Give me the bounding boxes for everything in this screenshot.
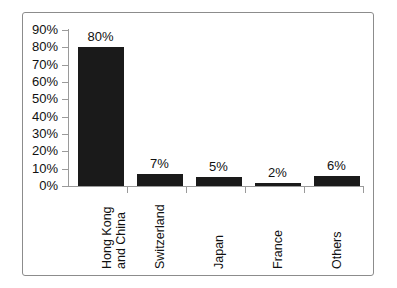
y-axis-tick [62, 47, 68, 48]
y-axis-tick-label: 10% [14, 162, 58, 175]
x-axis-category-label: France [271, 230, 285, 269]
y-axis-tick-label-text: 0% [14, 179, 58, 192]
y-axis-tick [62, 186, 68, 187]
bar-value-label: 80% [71, 30, 131, 44]
y-axis-tick-label-text: 10% [14, 162, 58, 175]
plot-area: 0%10%20%30%40%50%60%70%80%90% 80%7%5%2%6… [0, 0, 397, 288]
y-axis-tick [62, 30, 68, 31]
bar [196, 177, 242, 186]
x-axis-category-label: Switzerland [153, 204, 167, 269]
y-axis-tick [62, 117, 68, 118]
bar [78, 47, 124, 186]
y-axis-tick-label-text: 80% [14, 40, 58, 53]
y-axis-tick-label-text: 70% [14, 58, 58, 71]
bar-value-label: 2% [248, 166, 308, 180]
y-axis-tick-label: 40% [14, 110, 58, 123]
y-axis-tick-label-text: 50% [14, 92, 58, 105]
y-axis-tick-label-text: 20% [14, 144, 58, 157]
y-axis-tick-label-text: 30% [14, 127, 58, 140]
y-axis-tick-label: 90% [14, 23, 58, 36]
y-axis-tick-label: 30% [14, 127, 58, 140]
y-axis-tick [62, 151, 68, 152]
x-axis-tick [245, 186, 246, 193]
bar [314, 176, 360, 186]
x-axis-tick [127, 186, 128, 193]
y-axis-tick-label-text: 40% [14, 110, 58, 123]
x-axis-category-label: Others [330, 231, 344, 269]
category-label-line: Others [330, 231, 344, 269]
y-axis-tick-label: 50% [14, 92, 58, 105]
x-axis-line [68, 186, 363, 187]
y-axis-tick-label: 0% [14, 179, 58, 192]
y-axis-tick-label: 80% [14, 40, 58, 53]
y-axis-tick [62, 82, 68, 83]
category-label-line: France [271, 230, 285, 269]
y-axis-tick-label-text: 60% [14, 75, 58, 88]
x-axis-tick [186, 186, 187, 193]
category-label-line: Hong Kong [100, 206, 114, 269]
bar [255, 183, 301, 186]
x-axis-tick [304, 186, 305, 193]
category-label-line: Switzerland [153, 204, 167, 269]
y-axis-tick-label-text: 90% [14, 23, 58, 36]
x-axis-category-label: Japan [212, 235, 226, 269]
y-axis-tick-label: 70% [14, 58, 58, 71]
category-label-line: Japan [212, 235, 226, 269]
category-label-line: and China [114, 206, 128, 269]
y-axis-tick [62, 65, 68, 66]
bar-value-label: 6% [307, 159, 367, 173]
x-axis-tick [363, 186, 364, 193]
bar-value-label: 7% [130, 157, 190, 171]
y-axis-tick [62, 99, 68, 100]
bar-value-label: 5% [189, 160, 249, 174]
bar-chart-figure: 0%10%20%30%40%50%60%70%80%90% 80%7%5%2%6… [0, 0, 397, 288]
y-axis-tick [62, 169, 68, 170]
y-axis-line [68, 29, 69, 187]
y-axis-tick-label: 20% [14, 144, 58, 157]
y-axis-tick [62, 134, 68, 135]
x-axis-category-label: Hong Kongand China [100, 206, 128, 269]
y-axis-tick-label: 60% [14, 75, 58, 88]
bar [137, 174, 183, 186]
